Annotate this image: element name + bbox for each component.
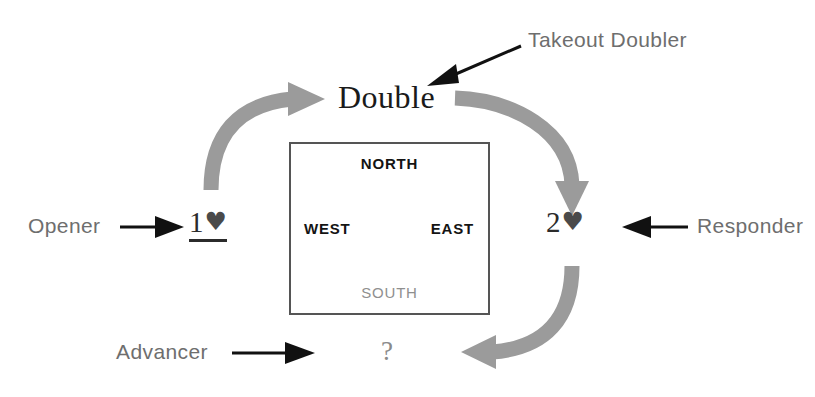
pointer-arrow-advancer — [232, 342, 315, 364]
label-opener: Opener — [28, 214, 100, 238]
bridge-auction-diagram: Double : curves up and to the right --> … — [0, 0, 815, 397]
call-responder-bid: 2♥ — [546, 208, 584, 237]
compass-seat-north: NORTH — [291, 155, 488, 172]
responder-bid-level: 2 — [546, 206, 561, 238]
label-takeout-doubler: Takeout Doubler — [528, 28, 687, 52]
call-double: Double — [338, 79, 435, 116]
pointer-arrow-opener — [120, 216, 184, 238]
opener-bid-level: 1 — [189, 206, 204, 238]
call-opener-bid: 1♥ — [189, 208, 227, 242]
compass-seat-west: WEST — [304, 220, 351, 237]
heart-suit-icon: ♥ — [205, 207, 227, 236]
call-advancer-pending: ? — [381, 336, 393, 367]
compass-seat-east: EAST — [431, 220, 474, 237]
heart-suit-icon: ♥ — [562, 207, 584, 236]
label-advancer: Advancer — [116, 340, 208, 364]
label-responder: Responder — [697, 214, 803, 238]
compass-seat-south: SOUTH — [291, 284, 488, 301]
compass-box: NORTH WEST EAST SOUTH — [289, 142, 490, 315]
pointer-arrow-responder — [622, 216, 688, 238]
pointer-arrow-takeout-doubler — [427, 46, 521, 86]
